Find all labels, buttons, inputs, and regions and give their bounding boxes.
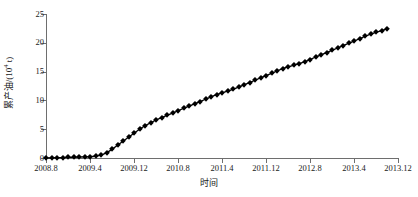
series-polyline (0, 0, 418, 197)
chart-figure: 0510152025 2008.82009.42009.122010.82011… (0, 0, 418, 197)
